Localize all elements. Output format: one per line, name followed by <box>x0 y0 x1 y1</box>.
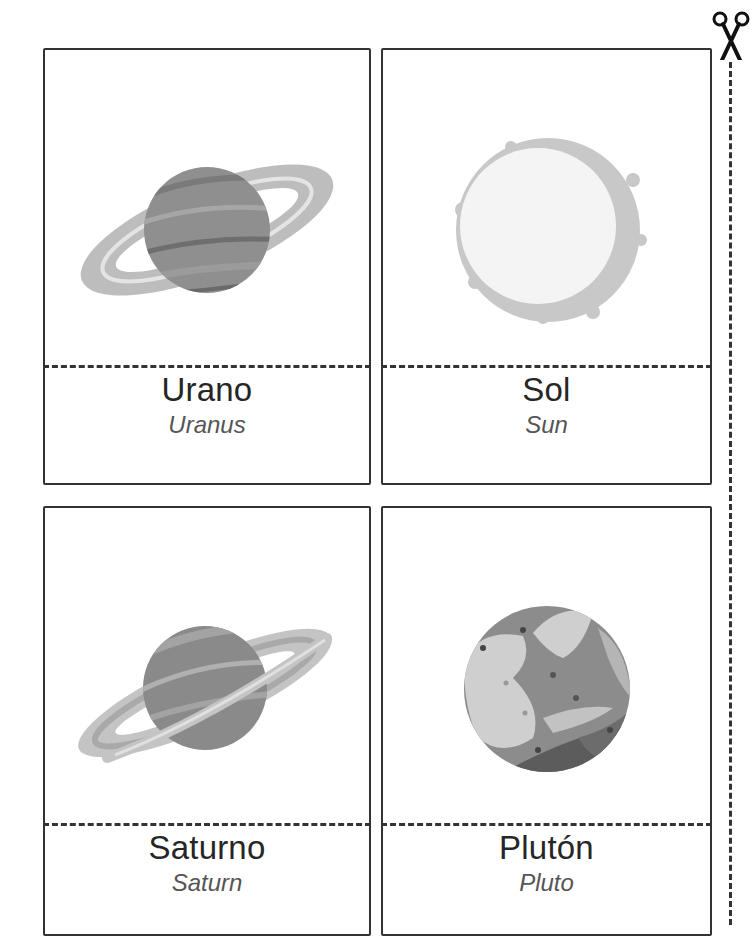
card-title-english: Pluto <box>383 868 710 898</box>
vertical-cut-line <box>729 62 732 925</box>
flashcard-sol: Sol Sun <box>381 48 712 485</box>
ringed-planet-icon <box>45 50 369 365</box>
card-title-spanish: Urano <box>45 370 369 410</box>
card-title-spanish: Sol <box>383 370 710 410</box>
ringed-planet-icon <box>45 508 369 823</box>
fold-line <box>43 365 371 368</box>
flashcard-saturno: Saturno Saturn <box>43 506 371 936</box>
card-title-english: Sun <box>383 410 710 440</box>
card-title-english: Uranus <box>45 410 369 440</box>
scissors-icon <box>710 10 750 60</box>
card-title-spanish: Saturno <box>45 828 369 868</box>
card-title-spanish: Plutón <box>383 828 710 868</box>
sun-icon <box>383 50 710 365</box>
fold-line <box>43 823 371 826</box>
card-title-english: Saturn <box>45 868 369 898</box>
flashcard-pluton: Plutón Pluto <box>381 506 712 936</box>
flashcard-urano: Urano Uranus <box>43 48 371 485</box>
dwarf-planet-icon <box>383 508 710 823</box>
fold-line <box>381 365 712 368</box>
fold-line <box>381 823 712 826</box>
